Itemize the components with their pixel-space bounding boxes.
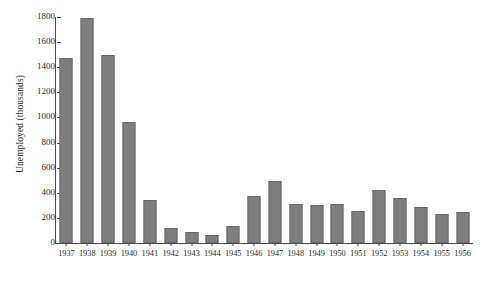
y-axis-tick-label: 1400 <box>37 61 55 71</box>
bar-slot <box>56 17 77 243</box>
bar[interactable] <box>102 55 115 243</box>
y-axis-tick-label: 600 <box>42 162 56 172</box>
bar-slot <box>119 17 140 243</box>
x-axis-tick-mark <box>233 243 234 246</box>
bar[interactable] <box>185 232 198 243</box>
bar-slot <box>181 17 202 243</box>
x-axis-tick-label: 1952 <box>369 249 390 258</box>
bar[interactable] <box>122 122 135 243</box>
bar-slot <box>452 17 473 243</box>
bar-slot <box>98 17 119 243</box>
x-axis-tick-label: 1940 <box>119 249 140 258</box>
bar-slot <box>369 17 390 243</box>
bar-slot <box>202 17 223 243</box>
bar-slot <box>139 17 160 243</box>
bar-slot <box>77 17 98 243</box>
x-axis-tick-mark <box>66 243 67 246</box>
bar-slot <box>390 17 411 243</box>
bar[interactable] <box>289 204 302 243</box>
x-axis-tick-mark <box>191 243 192 246</box>
bar[interactable] <box>81 18 94 243</box>
x-axis-tick-label: 1944 <box>202 249 223 258</box>
y-axis-tick-label: 200 <box>42 212 56 222</box>
x-axis-tick-label: 1945 <box>223 249 244 258</box>
x-axis-tick-mark <box>316 243 317 246</box>
plot-area: 020040060080010001200140016001800 193719… <box>55 17 473 243</box>
x-axis-tick-label: 1950 <box>327 249 348 258</box>
y-axis-tick-label: 400 <box>42 187 56 197</box>
bar[interactable] <box>268 181 281 243</box>
bar[interactable] <box>310 205 323 243</box>
bar[interactable] <box>435 214 448 244</box>
x-axis-tick-label: 1939 <box>98 249 119 258</box>
x-axis-tick-label: 1956 <box>452 249 473 258</box>
x-axis-tick-mark <box>149 243 150 246</box>
bar-slot <box>348 17 369 243</box>
x-axis-tick-mark <box>400 243 401 246</box>
bar[interactable] <box>352 211 365 243</box>
x-axis-tick-mark <box>379 243 380 246</box>
x-axis-tick-label: 1948 <box>285 249 306 258</box>
bar-slot <box>223 17 244 243</box>
bar[interactable] <box>60 58 73 243</box>
bar-slot <box>410 17 431 243</box>
x-axis-tick-mark <box>274 243 275 246</box>
x-axis-tick-mark <box>462 243 463 246</box>
x-axis-tick-mark <box>87 243 88 246</box>
bar-slot <box>265 17 286 243</box>
x-axis-tick-mark <box>254 243 255 246</box>
bar[interactable] <box>331 204 344 243</box>
x-axis-tick-mark <box>295 243 296 246</box>
y-axis-title: Unemployed (thousands) <box>10 0 30 248</box>
bar[interactable] <box>227 226 240 243</box>
x-axis-tick-label: 1951 <box>348 249 369 258</box>
bar[interactable] <box>456 212 469 243</box>
y-axis-tick: 0 <box>27 243 61 244</box>
y-axis-tick-mark <box>57 243 61 244</box>
y-axis-tick-label: 800 <box>42 137 56 147</box>
y-axis-tick-label: 0 <box>51 237 56 247</box>
bar-slot <box>285 17 306 243</box>
bar-slot <box>431 17 452 243</box>
x-axis-tick-mark <box>337 243 338 246</box>
y-axis-tick-label: 1800 <box>37 11 55 21</box>
bar-slot <box>160 17 181 243</box>
bar[interactable] <box>206 235 219 243</box>
bar-slot <box>327 17 348 243</box>
x-axis-tick-mark <box>170 243 171 246</box>
bar[interactable] <box>248 196 261 243</box>
x-axis-tick-label: 1954 <box>410 249 431 258</box>
bar-slot <box>306 17 327 243</box>
bar[interactable] <box>394 198 407 243</box>
x-axis-tick-label: 1938 <box>77 249 98 258</box>
x-axis-tick-mark <box>441 243 442 246</box>
x-axis-tick-label: 1943 <box>181 249 202 258</box>
y-axis-title-text: Unemployed (thousands) <box>15 75 25 173</box>
y-axis-tick-label: 1200 <box>37 86 55 96</box>
bar[interactable] <box>143 200 156 243</box>
bar-series <box>56 17 473 243</box>
x-axis-tick-label: 1953 <box>390 249 411 258</box>
x-axis-tick-mark <box>420 243 421 246</box>
bar[interactable] <box>373 190 386 243</box>
x-axis-tick-label: 1942 <box>160 249 181 258</box>
x-axis-tick-label: 1946 <box>244 249 265 258</box>
x-axis-tick-label: 1955 <box>431 249 452 258</box>
bar[interactable] <box>414 207 427 243</box>
x-axis-tick-mark <box>128 243 129 246</box>
x-axis-tick-mark <box>212 243 213 246</box>
x-axis-tick-label: 1947 <box>265 249 286 258</box>
chart-page: Unemployed (thousands) 02004006008001000… <box>0 0 482 291</box>
x-axis-tick-label: 1937 <box>56 249 77 258</box>
x-axis-tick-mark <box>108 243 109 246</box>
y-axis-tick-label: 1000 <box>37 111 55 121</box>
bar[interactable] <box>164 228 177 243</box>
x-axis-line <box>55 243 473 244</box>
bar-slot <box>244 17 265 243</box>
y-axis-tick-label: 1600 <box>37 36 55 46</box>
x-axis-tick-label: 1949 <box>306 249 327 258</box>
x-axis-tick-label: 1941 <box>139 249 160 258</box>
x-axis-tick-mark <box>358 243 359 246</box>
